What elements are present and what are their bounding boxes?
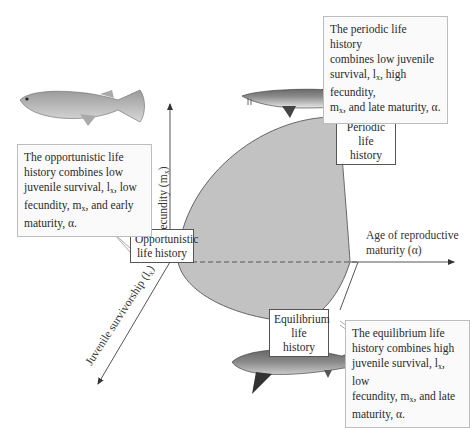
guppy-icon bbox=[20, 90, 145, 126]
equilibrium-callout: The equilibrium life history combines hi… bbox=[345, 320, 470, 428]
opportunistic-callout: The opportunistic life history combines … bbox=[17, 144, 152, 237]
fecundity-axis-label: Fecundity (mx) bbox=[156, 167, 174, 237]
periodic-label: Periodic life history bbox=[336, 117, 396, 165]
periodic-callout: The periodic life history combines low j… bbox=[323, 16, 448, 124]
equilibrium-label: Equilibrium life history bbox=[269, 309, 329, 357]
maturity-axis-label: Age of reproductive maturity (α) bbox=[366, 228, 459, 258]
life-history-region bbox=[178, 117, 350, 322]
